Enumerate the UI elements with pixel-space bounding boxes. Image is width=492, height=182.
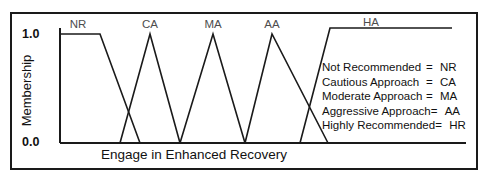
legend-equals: = xyxy=(426,75,440,90)
legend-abbr: CA xyxy=(440,75,456,90)
fuzzy-membership-figure: 1.0 0.0 Membership Engage in Enhanced Re… xyxy=(0,0,492,182)
legend-equals: = xyxy=(426,60,440,75)
legend-name: Highly Recommended xyxy=(322,118,435,133)
legend-abbr: NR xyxy=(440,60,457,75)
legend-name: Moderate Approach xyxy=(322,89,426,104)
y-axis-title: Membership xyxy=(19,31,34,151)
legend-row: Moderate Approach = MA xyxy=(322,89,474,104)
set-label-ca: CA xyxy=(136,18,164,30)
x-axis-title: Engage in Enhanced Recovery xyxy=(60,147,328,162)
legend-name: Aggressive Approach xyxy=(322,104,431,119)
legend-row: Cautious Approach = CA xyxy=(322,75,474,90)
legend-abbr: AA xyxy=(445,104,460,119)
legend: Not Recommended = NR Cautious Approach =… xyxy=(322,60,474,133)
membership-curve-nr xyxy=(60,34,140,143)
legend-name: Cautious Approach xyxy=(322,75,426,90)
membership-curve-aa xyxy=(245,34,328,143)
legend-row: Highly Recommended = HR xyxy=(322,118,474,133)
legend-row: Not Recommended = NR xyxy=(322,60,474,75)
set-label-aa: AA xyxy=(258,18,286,30)
set-label-ma: MA xyxy=(199,18,227,30)
legend-equals: = xyxy=(431,104,445,119)
legend-equals: = xyxy=(426,89,440,104)
legend-row: Aggressive Approach = AA xyxy=(322,104,474,119)
legend-name: Not Recommended xyxy=(322,60,426,75)
set-label-nr: NR xyxy=(64,18,92,30)
membership-curve-ca xyxy=(120,34,180,143)
set-label-ha: HA xyxy=(357,16,385,28)
legend-abbr: MA xyxy=(440,89,457,104)
legend-abbr: HR xyxy=(449,118,466,133)
membership-curve-ma xyxy=(180,34,245,143)
legend-equals: = xyxy=(435,118,449,133)
